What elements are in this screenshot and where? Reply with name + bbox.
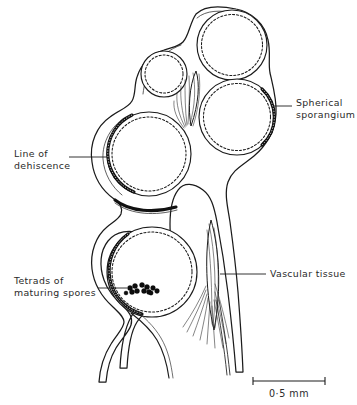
scale-bar-label: 0·5 mm	[269, 388, 309, 399]
label-spherical-sporangium-line2: sporangium	[296, 109, 355, 120]
scale-bar: 0·5 mm	[253, 377, 325, 399]
label-line-of-dehiscence-line2: dehiscence	[14, 160, 70, 171]
left-middle-sporangium	[107, 112, 191, 196]
label-tetrads-of-maturing-spores: Tetrads of maturing spores	[13, 275, 96, 298]
sporangium-diagram: Spherical sporangium Line of dehiscence …	[0, 0, 357, 405]
label-spherical-sporangium: Spherical sporangium	[296, 97, 355, 120]
label-tetrads-line2: maturing spores	[14, 287, 96, 298]
small-upper-left-sporangium	[141, 51, 187, 97]
label-vascular-tissue-line1: Vascular tissue	[270, 268, 346, 279]
upper-right-sporangium	[197, 10, 267, 80]
label-line-of-dehiscence-line1: Line of	[14, 148, 48, 159]
right-middle-sporangium	[199, 79, 275, 155]
lower-sporangium	[107, 227, 197, 317]
label-vascular-tissue: Vascular tissue	[270, 268, 346, 279]
label-spherical-sporangium-line1: Spherical	[296, 97, 343, 108]
label-line-of-dehiscence: Line of dehiscence	[14, 148, 70, 171]
label-tetrads-line1: Tetrads of	[13, 275, 64, 286]
